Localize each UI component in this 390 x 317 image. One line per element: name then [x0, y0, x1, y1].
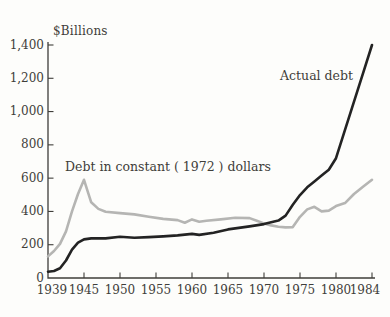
debt-chart-page: { "colors": { "background": "#fdfdfb", "…	[0, 0, 390, 317]
x-tick-label: 1945	[66, 284, 102, 297]
x-tick-label: 1984	[347, 284, 383, 297]
series-label-constant-dollars: Debt in constant ( 1972 ) dollars	[65, 161, 271, 174]
y-tick-label: 400	[0, 205, 44, 218]
y-tick-label: 1,400	[0, 39, 44, 52]
series-label-actual-debt: Actual debt	[280, 70, 353, 83]
x-tick-label: 1939	[34, 284, 70, 297]
y-tick-label: 800	[0, 138, 44, 151]
y-tick-label: 600	[0, 172, 44, 185]
y-axis-unit-label: $Billions	[53, 25, 108, 37]
x-tick-label: 1970	[246, 284, 282, 297]
debt-chart-figure: $Billions Actual debt Debt in constant (…	[0, 0, 390, 317]
x-tick-label: 1960	[174, 284, 210, 297]
series-line-constant-dollars	[48, 180, 372, 257]
x-tick-label: 1975	[282, 284, 318, 297]
x-tick-label: 1955	[138, 284, 174, 297]
x-tick-label: 1965	[210, 284, 246, 297]
y-tick-label: 1,200	[0, 72, 44, 85]
y-tick-label: 1,000	[0, 105, 44, 118]
y-tick-label: 200	[0, 238, 44, 251]
x-tick-label: 1950	[102, 284, 138, 297]
